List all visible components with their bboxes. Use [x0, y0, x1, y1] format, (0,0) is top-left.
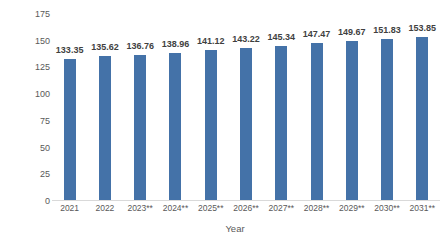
bar[interactable]	[205, 50, 217, 201]
bar-group: 143.22	[230, 14, 262, 201]
bar[interactable]	[346, 41, 358, 201]
y-tick-label: 175	[10, 9, 50, 19]
bar[interactable]	[134, 55, 146, 201]
y-tick-label: 50	[10, 143, 50, 153]
y-tick-label: 150	[10, 36, 50, 46]
x-tick-label: 2021	[50, 203, 90, 213]
x-tick-label: 2023**	[120, 203, 160, 213]
bar-group: 147.47	[301, 14, 333, 201]
bars-layer: 133.35135.62136.76138.96141.12143.22145.…	[52, 14, 440, 201]
bar-group: 138.96	[159, 14, 191, 201]
x-tick-label: 2029**	[332, 203, 372, 213]
bar-group: 141.12	[195, 14, 227, 201]
x-tick-label: 2027**	[261, 203, 301, 213]
y-axis-ticks: 0255075100125150175	[8, 0, 50, 247]
bar-chart-figure: Consumption in metric kilotons 025507510…	[0, 0, 444, 247]
bar-group: 136.76	[124, 14, 156, 201]
bar[interactable]	[311, 43, 323, 201]
x-axis-ticks: 202120222023**2024**2025**2026**2027**20…	[52, 203, 440, 219]
x-axis-title: Year	[205, 223, 265, 234]
bar[interactable]	[240, 48, 252, 201]
bar-group: 151.83	[371, 14, 403, 201]
x-axis-baseline	[52, 200, 440, 201]
bar-group: 145.34	[265, 14, 297, 201]
y-tick-label: 125	[10, 62, 50, 72]
x-tick-label: 2026**	[226, 203, 266, 213]
bar-group: 149.67	[336, 14, 368, 201]
y-tick-label: 25	[10, 169, 50, 179]
x-tick-label: 2031**	[402, 203, 442, 213]
x-tick-label: 2030**	[367, 203, 407, 213]
bar-group: 135.62	[89, 14, 121, 201]
bar[interactable]	[381, 39, 393, 201]
y-tick-label: 75	[10, 116, 50, 126]
plot-area: 133.35135.62136.76138.96141.12143.22145.…	[52, 14, 440, 201]
bar-group: 153.85	[406, 14, 438, 201]
bar-group: 133.35	[54, 14, 86, 201]
bar[interactable]	[64, 59, 76, 201]
y-tick-label: 100	[10, 89, 50, 99]
bar[interactable]	[169, 53, 181, 201]
x-tick-label: 2024**	[155, 203, 195, 213]
bar[interactable]	[416, 37, 428, 201]
x-tick-label: 2025**	[191, 203, 231, 213]
y-tick-label: 0	[10, 196, 50, 206]
x-tick-label: 2028**	[297, 203, 337, 213]
bar-value-label: 153.85	[400, 23, 444, 33]
x-tick-label: 2022	[85, 203, 125, 213]
bar[interactable]	[275, 46, 287, 201]
bar[interactable]	[99, 56, 111, 201]
